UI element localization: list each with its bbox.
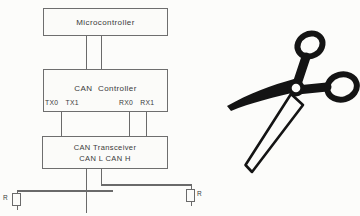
tx0-wire (61, 112, 63, 136)
tx-pin-labels: TX0 TX1 (45, 99, 79, 106)
can-transceiver-title: CAN Transceiver (74, 142, 137, 153)
rx-pin-labels: RX0 RX1 (119, 99, 154, 106)
scissors-icon (218, 12, 360, 182)
left-resistor-label: R (3, 194, 8, 201)
bus-line-low (17, 190, 113, 192)
left-resistor-lead-bottom (17, 206, 19, 210)
right-resistor-label: R (197, 190, 202, 197)
can-controller-label: CAN Controller (74, 84, 136, 93)
rx1-wire (146, 112, 148, 136)
mcu-bus-wire-right (101, 36, 103, 69)
left-termination-resistor (12, 193, 21, 206)
microcontroller-box: Microcontroller (43, 8, 168, 36)
right-termination-resistor (186, 189, 195, 202)
can-transceiver-pins: CAN L CAN H (79, 153, 131, 164)
bus-line-high (101, 184, 191, 186)
can-h-wire (101, 168, 103, 185)
microcontroller-label: Microcontroller (76, 18, 134, 27)
right-resistor-lead-bottom (191, 202, 193, 206)
rx0-wire (129, 112, 131, 136)
scanned-diagram-page: Microcontroller CAN Controller TX0 TX1 R… (0, 0, 360, 216)
mcu-bus-wire-left (86, 36, 88, 69)
can-transceiver-box: CAN Transceiver CAN L CAN H (42, 136, 168, 169)
